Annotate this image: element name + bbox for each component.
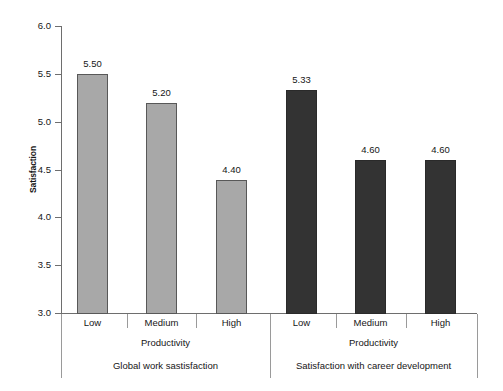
bar-right-medium[interactable] bbox=[355, 160, 386, 314]
y-tick-label: 4.0 bbox=[18, 210, 51, 223]
bar-value-right-high: 4.60 bbox=[415, 144, 466, 156]
x-axis-label-left: Productivity bbox=[61, 336, 270, 350]
y-tick-label: 5.0 bbox=[18, 115, 51, 128]
panel-rule-right bbox=[477, 314, 478, 378]
bar-chart: Satisfaction 3.0 3.5 4.0 4.5 5.0 5.5 6.0… bbox=[0, 0, 503, 391]
category-label-left-high: High bbox=[206, 316, 257, 330]
panel-title-left: Global work sastisfaction bbox=[61, 359, 270, 373]
bar-left-medium[interactable] bbox=[146, 103, 177, 314]
category-label-right-medium: Medium bbox=[345, 316, 396, 330]
y-tick-label: 3.0 bbox=[18, 306, 51, 319]
category-label-left-medium: Medium bbox=[136, 316, 187, 330]
x-axis-label-right: Productivity bbox=[270, 336, 477, 350]
category-tick bbox=[336, 314, 337, 328]
category-tick bbox=[406, 314, 407, 328]
bar-value-right-medium: 4.60 bbox=[345, 144, 396, 156]
bar-value-left-high: 4.40 bbox=[206, 164, 257, 176]
y-tick-label: 4.5 bbox=[18, 163, 51, 176]
bar-value-right-low: 5.33 bbox=[276, 74, 327, 86]
bar-left-low[interactable] bbox=[77, 74, 108, 314]
bar-right-high[interactable] bbox=[425, 160, 456, 314]
bar-right-low[interactable] bbox=[286, 90, 317, 314]
bar-value-left-medium: 5.20 bbox=[136, 87, 187, 99]
y-tick-mark bbox=[55, 74, 61, 75]
x-axis-baseline bbox=[61, 313, 477, 314]
y-tick-mark bbox=[55, 265, 61, 266]
category-label-right-low: Low bbox=[276, 316, 327, 330]
y-tick-mark bbox=[55, 217, 61, 218]
y-tick-mark bbox=[55, 122, 61, 123]
bar-left-high[interactable] bbox=[216, 180, 247, 314]
y-tick-mark bbox=[55, 170, 61, 171]
panel-title-right: Satisfaction with career development bbox=[270, 359, 477, 373]
y-tick-mark bbox=[55, 26, 61, 27]
y-tick-label: 5.5 bbox=[18, 67, 51, 80]
category-tick bbox=[127, 314, 128, 328]
category-label-right-high: High bbox=[415, 316, 466, 330]
category-tick bbox=[196, 314, 197, 328]
bar-value-left-low: 5.50 bbox=[67, 58, 118, 70]
y-tick-label: 6.0 bbox=[18, 19, 51, 32]
y-tick-label: 3.5 bbox=[18, 258, 51, 271]
y-axis-spine bbox=[61, 26, 62, 314]
category-label-left-low: Low bbox=[67, 316, 118, 330]
